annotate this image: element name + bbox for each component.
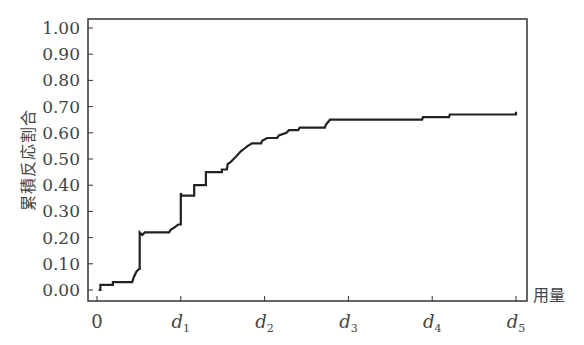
x-tick-label: 0 <box>91 311 102 332</box>
x-tick-label: d3 <box>339 311 358 335</box>
y-tick-label: 0.70 <box>42 97 80 117</box>
x-axis-ticks: 0d1d2d3d4d5 <box>91 296 525 335</box>
cumulative-response-chart: 0.000.100.200.300.400.500.600.700.800.90… <box>0 0 584 345</box>
y-axis-ticks: 0.000.100.200.300.400.500.600.700.800.90… <box>42 18 93 300</box>
y-axis-label: 累積反応割合 <box>19 109 38 211</box>
y-tick-label: 1.00 <box>42 18 80 38</box>
y-tick-label: 0.80 <box>42 70 80 90</box>
y-tick-label: 0.90 <box>42 44 80 64</box>
y-tick-label: 0.30 <box>42 201 80 221</box>
y-tick-label: 0.00 <box>42 280 80 300</box>
step-curve <box>99 112 516 290</box>
x-tick-label: d4 <box>423 311 442 335</box>
x-axis-label: 用量 <box>533 286 565 305</box>
x-tick-label: d5 <box>507 311 526 335</box>
x-tick-label: d2 <box>255 311 274 335</box>
plot-frame <box>88 19 527 301</box>
y-tick-label: 0.50 <box>42 149 80 169</box>
data-series <box>99 112 516 290</box>
y-tick-label: 0.20 <box>42 228 80 248</box>
y-tick-label: 0.10 <box>42 254 80 274</box>
y-tick-label: 0.40 <box>42 175 80 195</box>
y-tick-label: 0.60 <box>42 123 80 143</box>
x-tick-label: d1 <box>172 311 191 335</box>
